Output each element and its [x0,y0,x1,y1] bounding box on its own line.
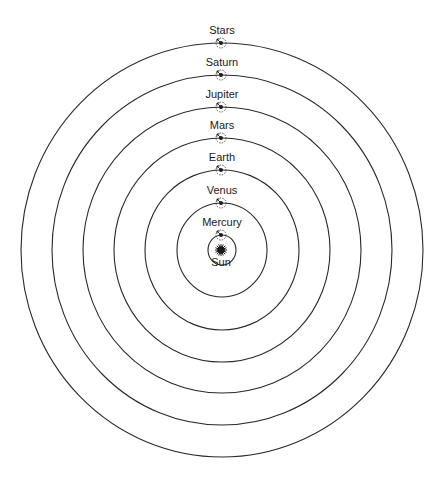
planet-mars: Mars [210,119,235,143]
arrow-icon [217,166,220,169]
label-mercury: Mercury [202,216,242,228]
arrow-icon [217,231,220,234]
planet-mercury: Mercury [202,216,242,240]
label-stars: Stars [209,24,235,36]
planet-earth: Earth [209,151,235,175]
label-jupiter: Jupiter [205,88,238,100]
sun-icon [215,244,227,256]
label-saturn: Saturn [206,56,238,68]
label-mars: Mars [210,119,235,131]
arrow-icon [217,199,220,202]
arrow-icon [217,134,220,137]
label-venus: Venus [207,184,238,196]
planet-stars: Stars [209,24,235,48]
planet-saturn: Saturn [206,56,238,80]
arrow-icon [217,39,220,42]
planet-jupiter: Jupiter [205,88,238,112]
heliocentric-diagram: MercuryVenusEarthMarsJupiterSaturnStars … [0,0,440,479]
arrow-icon [217,103,220,106]
bodies-group: MercuryVenusEarthMarsJupiterSaturnStars [202,24,242,240]
sun-label: Sun [211,256,231,268]
label-earth: Earth [209,151,235,163]
arrow-icon [217,71,220,74]
